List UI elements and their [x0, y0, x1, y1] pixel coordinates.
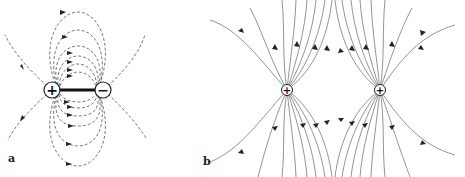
panel-b-arrows	[238, 28, 426, 154]
charge-positive-b-left: +	[282, 85, 293, 97]
panel-label-a: a	[8, 152, 15, 165]
panel-label-b: b	[203, 155, 211, 168]
svg-text:+: +	[283, 85, 291, 96]
charge-positive-a: +	[44, 82, 60, 98]
charge-negative-a: −	[95, 82, 111, 98]
charge-positive-b-right: +	[375, 85, 386, 97]
svg-text:+: +	[376, 85, 384, 96]
figure-canvas: + −	[0, 0, 465, 177]
svg-text:+: +	[46, 82, 58, 98]
panel-b-field-lines	[210, 0, 455, 177]
svg-text:−: −	[97, 82, 109, 98]
